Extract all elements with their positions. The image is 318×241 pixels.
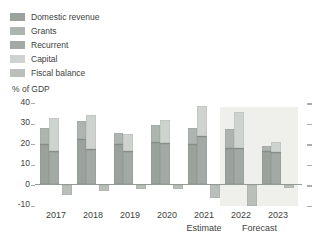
domestic-revenue-bar-segment: [77, 140, 86, 184]
y-tick-mark-left: [31, 144, 35, 145]
y-tick-mark-right: [307, 165, 312, 167]
capital-bar-segment: [234, 112, 244, 149]
y-tick-mark-right: [307, 144, 312, 146]
recurrent-bar-segment: [197, 137, 207, 184]
capital-bar-segment: [271, 142, 281, 153]
recurrent-bar-segment: [271, 153, 281, 184]
x-axis-year-label: 2022: [225, 210, 257, 220]
annotation-forecast: Forecast: [230, 223, 290, 233]
domestic-revenue-bar-segment: [188, 145, 197, 184]
domestic-revenue-bar-segment: [262, 152, 271, 184]
grants-bar-segment: [225, 129, 234, 150]
y-tick-mark-right: [307, 185, 312, 187]
y-tick-mark-left: [31, 185, 35, 186]
y-tick-label: -10: [8, 200, 30, 209]
fiscal-balance-bar: [173, 185, 183, 189]
grants-bar-segment: [151, 125, 160, 143]
recurrent-bar-segment: [49, 152, 59, 184]
capital-bar-segment: [123, 134, 133, 152]
y-tick-label: 20: [8, 139, 30, 148]
y-tick-label: 30: [8, 118, 30, 127]
recurrent-bar-segment: [234, 149, 244, 184]
recurrent-bar-segment: [86, 150, 96, 184]
recurrent-bar-segment: [160, 144, 170, 184]
grants-bar-segment: [114, 133, 123, 145]
domestic-revenue-bar-segment: [151, 143, 160, 184]
y-tick-label: 0: [8, 180, 30, 189]
domestic-revenue-bar-segment: [40, 145, 49, 184]
domestic-revenue-bar-segment: [114, 145, 123, 184]
recurrent-bar-segment: [123, 152, 133, 184]
y-tick-mark-left: [31, 165, 35, 166]
grants-bar-segment: [40, 128, 49, 145]
plot-area: 403020100-102017201820192020202120222023…: [0, 0, 318, 241]
fiscal-balance-bar: [247, 185, 257, 206]
y-tick-label: 10: [8, 159, 30, 168]
x-axis-year-label: 2020: [151, 210, 183, 220]
annotation-estimate: Estimate: [174, 223, 234, 233]
fiscal-balance-bar: [62, 185, 72, 195]
fiscal-balance-bar: [99, 185, 109, 191]
y-tick-mark-left: [31, 206, 35, 207]
x-axis-year-label: 2018: [77, 210, 109, 220]
y-tick-mark-left: [31, 124, 35, 125]
capital-bar-segment: [197, 106, 207, 137]
capital-bar-segment: [86, 115, 96, 150]
y-tick-mark-right: [307, 206, 312, 208]
x-axis-year-label: 2021: [188, 210, 220, 220]
capital-bar-segment: [49, 118, 59, 152]
y-tick-label: 40: [8, 98, 30, 107]
fiscal-balance-bar: [284, 185, 294, 188]
capital-bar-segment: [160, 120, 170, 144]
fiscal-balance-bar: [210, 185, 220, 198]
x-axis-year-label: 2017: [40, 210, 72, 220]
y-tick-mark-left: [31, 103, 35, 104]
x-axis-year-label: 2023: [262, 210, 294, 220]
y-tick-mark-right: [307, 124, 312, 126]
x-axis-year-label: 2019: [114, 210, 146, 220]
fiscal-chart-figure: Domestic revenueGrantsRecurrentCapitalFi…: [0, 0, 318, 241]
domestic-revenue-bar-segment: [225, 149, 234, 184]
y-tick-mark-right: [307, 103, 312, 105]
grants-bar-segment: [188, 128, 197, 145]
grants-bar-segment: [77, 121, 86, 139]
fiscal-balance-bar: [136, 185, 146, 189]
zero-axis-line: [35, 184, 302, 185]
